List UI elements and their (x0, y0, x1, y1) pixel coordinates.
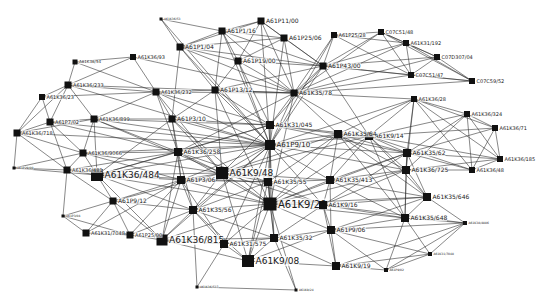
graph-node[interactable]: A61P7/02 (47, 119, 80, 126)
node-square-icon[interactable] (160, 18, 163, 21)
node-square-icon[interactable] (378, 29, 384, 35)
node-square-icon[interactable] (91, 116, 98, 123)
node-square-icon[interactable] (64, 167, 71, 174)
node-square-icon[interactable] (177, 176, 185, 184)
node-square-icon[interactable] (331, 32, 337, 38)
graph-node[interactable]: C07C51/48 (378, 29, 413, 35)
node-square-icon[interactable] (492, 125, 498, 131)
node-square-icon[interactable] (153, 89, 160, 96)
node-square-icon[interactable] (401, 214, 409, 222)
node-square-icon[interactable] (291, 90, 298, 97)
node-square-icon[interactable] (220, 240, 228, 248)
node-square-icon[interactable] (327, 226, 335, 234)
node-square-icon[interactable] (463, 221, 467, 225)
graph-node[interactable]: A61K9/16 (319, 201, 358, 209)
node-square-icon[interactable] (332, 262, 340, 270)
node-square-icon[interactable] (334, 130, 342, 138)
node-square-icon[interactable] (403, 40, 409, 46)
node-square-icon[interactable] (469, 167, 475, 173)
graph-node[interactable]: A61K36/93 (130, 54, 165, 60)
node-square-icon[interactable] (469, 78, 475, 84)
node-square-icon[interactable] (177, 44, 184, 51)
graph-node[interactable]: A61P1/04 (177, 43, 215, 50)
node-square-icon[interactable] (169, 116, 176, 123)
graph-node[interactable]: A61K9/24 (295, 288, 314, 292)
graph-node[interactable]: A61K36/232 (153, 89, 192, 96)
node-square-icon[interactable] (65, 82, 72, 89)
graph-node[interactable]: A61K35/55 (264, 178, 307, 186)
node-square-icon[interactable] (83, 230, 90, 237)
node-square-icon[interactable] (127, 232, 134, 239)
node-square-icon[interactable] (319, 201, 327, 209)
graph-node[interactable]: A61K36/725 (402, 166, 448, 174)
node-square-icon[interactable] (73, 60, 78, 65)
graph-node[interactable]: A61K35/62 (403, 149, 446, 157)
graph-node[interactable]: A61P9/12 (110, 197, 148, 204)
node-square-icon[interactable] (39, 94, 45, 100)
graph-node[interactable]: A61K35/78 (291, 89, 333, 96)
graph-node[interactable]: A61P9/10 (265, 140, 311, 150)
graph-node[interactable]: A61P25/00 (127, 232, 163, 239)
graph-node[interactable]: A61K38/4886 (463, 221, 489, 225)
graph-node[interactable]: A61K36/9066 (80, 150, 122, 157)
graph-node[interactable]: A61K36/28 (411, 96, 446, 102)
node-square-icon[interactable] (189, 206, 197, 214)
graph-node[interactable]: A61P25/28 (331, 32, 366, 38)
graph-node[interactable]: A61K36/324 (464, 111, 502, 117)
graph-node[interactable]: A61P1/16 (219, 27, 257, 34)
node-square-icon[interactable] (434, 54, 440, 60)
graph-node[interactable]: A61P9/06 (327, 226, 366, 234)
node-square-icon[interactable] (270, 234, 278, 242)
node-square-icon[interactable] (423, 193, 431, 201)
graph-node[interactable]: A61K31/192 (403, 40, 441, 46)
node-square-icon[interactable] (264, 178, 272, 186)
node-square-icon[interactable] (219, 28, 226, 35)
graph-node[interactable]: C07C51/47 (408, 72, 443, 78)
graph-node[interactable]: A61K35/413 (326, 176, 372, 184)
node-square-icon[interactable] (266, 121, 274, 129)
graph-node[interactable]: A61K31/7048 (428, 252, 454, 256)
graph-node[interactable]: A61K9/48 (216, 167, 273, 179)
graph-node[interactable]: A61P11/00 (258, 17, 299, 24)
node-square-icon[interactable] (497, 156, 503, 162)
graph-node[interactable]: C07C59/52 (469, 78, 504, 84)
node-square-icon[interactable] (174, 148, 182, 156)
graph-node[interactable]: A61K35/32 (270, 234, 313, 242)
node-square-icon[interactable] (242, 255, 254, 267)
node-square-icon[interactable] (235, 58, 242, 65)
graph-node[interactable]: A61K31/045 (266, 121, 312, 129)
graph-node[interactable]: A61K9/08 (242, 255, 299, 267)
node-square-icon[interactable] (264, 198, 277, 211)
graph-node[interactable]: A61P3/04 (62, 214, 81, 218)
node-square-icon[interactable] (295, 289, 298, 292)
graph-node[interactable]: A61K36/899 (91, 116, 130, 123)
graph-node[interactable]: A61K35/646 (423, 193, 469, 201)
graph-node[interactable]: A61P13/12 (212, 86, 253, 93)
node-square-icon[interactable] (212, 87, 219, 94)
node-square-icon[interactable] (281, 35, 288, 42)
graph-node[interactable]: A61K35/64 (334, 130, 377, 138)
graph-node[interactable]: A61K36/233 (65, 82, 104, 89)
graph-node[interactable]: C07D307/04 (434, 54, 473, 60)
graph-node[interactable]: A61K36/185 (497, 156, 535, 162)
graph-node[interactable]: A61K36/48 (469, 167, 504, 173)
graph-node[interactable]: A61P25/06 (281, 34, 322, 41)
graph-node[interactable]: A61K36/815 (157, 235, 225, 246)
node-square-icon[interactable] (265, 140, 275, 150)
graph-node[interactable]: A61P3/10 (169, 115, 207, 122)
node-square-icon[interactable] (13, 167, 16, 170)
node-square-icon[interactable] (402, 166, 410, 174)
graph-node[interactable]: A61K31/575 (220, 240, 266, 248)
graph-node[interactable]: A61P9/02 (384, 268, 404, 272)
graph-node[interactable]: A61P43/00 (320, 62, 361, 69)
node-square-icon[interactable] (408, 72, 414, 78)
graph-node[interactable]: A61K36/258 (174, 148, 220, 156)
graph-node[interactable]: A61P3/06 (177, 176, 216, 184)
graph-node[interactable]: A61K9/19 (332, 262, 371, 270)
node-square-icon[interactable] (47, 119, 54, 126)
graph-node[interactable]: A61P19/00 (235, 57, 276, 64)
graph-node[interactable]: A61K36/481 (64, 167, 103, 174)
node-square-icon[interactable] (130, 54, 136, 60)
node-square-icon[interactable] (320, 63, 327, 70)
node-square-icon[interactable] (326, 176, 334, 184)
